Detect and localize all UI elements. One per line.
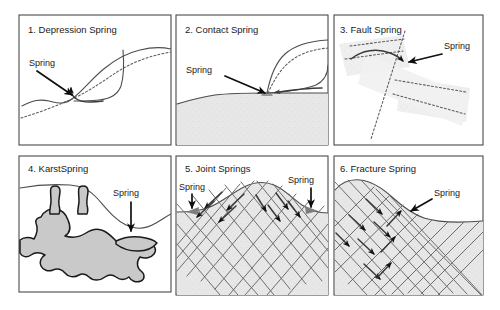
spring-label: Spring — [113, 188, 139, 198]
spring-leader-arrow — [225, 76, 265, 93]
spring-label: Spring — [434, 188, 460, 198]
panel-3-title: 3. Fault Spring — [340, 24, 402, 35]
panel-depression-spring: Spring 1. Depression Spring — [19, 15, 171, 145]
panel-fault-spring: Spring 3. Fault Spring — [334, 15, 483, 145]
panel-karst-spring: Spring 4. KarstSpring — [19, 156, 171, 292]
panel-6-title: 6. Fracture Spring — [340, 163, 416, 174]
contact-flow-arrow — [275, 88, 322, 93]
panel-4-title: 4. KarstSpring — [28, 163, 88, 174]
spring-types-diagram: Spring 1. Depression Spring Spring 2. Co… — [0, 0, 500, 310]
sinkhole-shaft-right — [78, 186, 88, 214]
panel-1-title: 1. Depression Spring — [28, 24, 117, 35]
spring-label: Spring — [186, 65, 212, 75]
spring-label: Spring — [29, 58, 55, 68]
permeable-unit-outline — [267, 40, 328, 93]
spring-label: Spring — [444, 41, 470, 51]
spring-leader-arrow — [409, 54, 442, 62]
spring-label-left: Spring — [179, 182, 205, 192]
permeable-unit-base — [267, 65, 328, 93]
spring-leader-arrow — [411, 199, 432, 211]
sinkhole-shaft-left — [50, 186, 60, 214]
panel-5-title: 5. Joint Springs — [185, 163, 251, 174]
spring-label-right: Spring — [288, 175, 314, 185]
water-table-line — [268, 48, 328, 93]
panel-joint-springs: Spring Spring 5. Joint Springs — [176, 156, 328, 295]
rock-mass-shading — [335, 180, 483, 295]
panel-contact-spring: Spring 2. Contact Spring — [176, 15, 328, 146]
panel-fracture-spring: Spring 6. Fracture Spring — [334, 156, 483, 296]
spring-leader-arrow — [37, 71, 72, 95]
impermeable-layer — [177, 93, 328, 146]
panel-2-title: 2. Contact Spring — [185, 24, 258, 35]
depression-hollow — [74, 50, 124, 101]
diagram-canvas: Spring 1. Depression Spring Spring 2. Co… — [0, 0, 500, 310]
